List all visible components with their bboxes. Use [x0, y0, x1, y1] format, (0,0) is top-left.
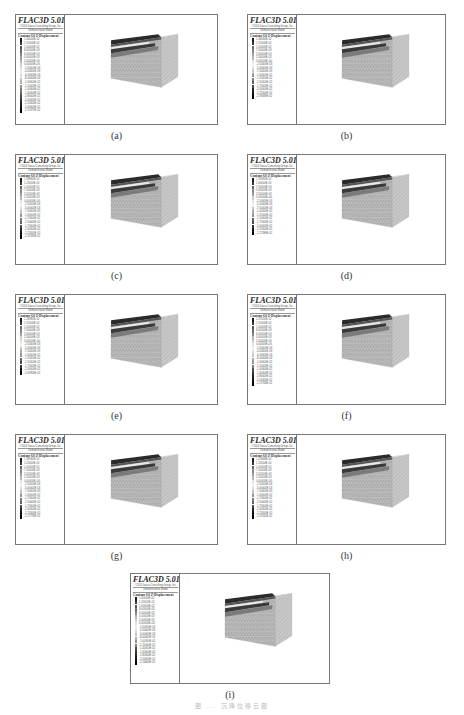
model-3d-render: [108, 449, 184, 511]
model-viewport: [297, 15, 445, 124]
legend-value: -2.16604E-02: [139, 661, 155, 665]
flac3d-window: FLAC3D 5.01 ©2014 Itasca Consulting Grou…: [15, 154, 218, 265]
legend-panel: FLAC3D 5.01 ©2014 Itasca Consulting Grou…: [248, 15, 297, 124]
legend-value: -2.05956E-02: [24, 372, 40, 376]
legend-swatch: [20, 109, 22, 112]
flac3d-window: FLAC3D 5.01 ©2014 Itasca Consulting Grou…: [247, 154, 446, 265]
legend-panel: FLAC3D 5.01 ©2014 Itasca Consulting Grou…: [16, 15, 65, 124]
figure-panel-g: FLAC3D 5.01 ©2014 Itasca Consulting Grou…: [15, 434, 218, 571]
software-title: FLAC3D 5.01: [133, 575, 178, 584]
flac3d-window: FLAC3D 5.01 ©2014 Itasca Consulting Grou…: [247, 434, 446, 545]
legend-list: 1.40000E-021.20000E-021.00000E-028.00000…: [135, 597, 178, 664]
legend-panel: FLAC3D 5.01 ©2014 Itasca Consulting Grou…: [16, 155, 65, 264]
model-viewport: [297, 155, 445, 264]
legend-value: -2.27778E-02: [24, 515, 40, 519]
figure-panel-d: FLAC3D 5.01 ©2014 Itasca Consulting Grou…: [247, 154, 446, 291]
legend-swatch: [252, 515, 254, 518]
legend-entry: -2.21766E-02: [252, 382, 295, 386]
model-3d-render: [339, 449, 415, 511]
legend-list: 1.37020E-021.20000E-021.00000E-028.00000…: [252, 318, 295, 385]
legend-swatch: [135, 661, 137, 664]
panel-label: (b): [247, 130, 446, 141]
software-title: FLAC3D 5.01: [250, 436, 295, 445]
software-title: FLAC3D 5.01: [18, 296, 63, 305]
model-3d-render: [108, 29, 184, 91]
legend-swatch: [20, 372, 22, 375]
model-viewport: [297, 435, 445, 544]
panel-label: (d): [247, 270, 446, 281]
model-3d-render: [339, 309, 415, 371]
figure-panel-i: FLAC3D 5.01 ©2014 Itasca Consulting Grou…: [130, 573, 330, 710]
model-viewport: [65, 435, 217, 544]
legend-value: -2.57475E-02: [24, 109, 40, 113]
legend-entry: -2.16604E-02: [135, 661, 178, 665]
software-title: FLAC3D 5.01: [18, 436, 63, 445]
software-title: FLAC3D 5.01: [250, 156, 295, 165]
legend-list: 1.31830E-021.00000E-027.50000E-035.00000…: [252, 178, 295, 235]
model-viewport: [65, 155, 217, 264]
model-viewport: [65, 15, 217, 124]
flac3d-window: FLAC3D 5.01 ©2014 Itasca Consulting Grou…: [15, 294, 218, 405]
figure-panel-c: FLAC3D 5.01 ©2014 Itasca Consulting Grou…: [15, 154, 218, 291]
model-viewport: [180, 574, 329, 683]
legend-panel: FLAC3D 5.01 ©2014 Itasca Consulting Grou…: [248, 155, 297, 264]
legend-swatch: [20, 235, 22, 238]
legend-value: -2.39483E-02: [256, 95, 272, 99]
legend-panel: FLAC3D 5.01 ©2014 Itasca Consulting Grou…: [16, 435, 65, 544]
software-title: FLAC3D 5.01: [250, 16, 295, 25]
legend-entry: -2.57475E-02: [20, 109, 63, 113]
software-title: FLAC3D 5.01: [18, 156, 63, 165]
legend-entry: -2.05956E-02: [20, 372, 63, 376]
legend-entry: -2.39483E-02: [252, 95, 295, 99]
legend-swatch: [252, 95, 254, 98]
model-3d-render: [339, 169, 415, 231]
legend-value: -2.27586E-02: [256, 232, 272, 236]
figure-panel-e: FLAC3D 5.01 ©2014 Itasca Consulting Grou…: [15, 294, 218, 431]
panel-label: (f): [247, 410, 446, 421]
flac3d-window: FLAC3D 5.01 ©2014 Itasca Consulting Grou…: [247, 14, 446, 125]
legend-value: -2.21766E-02: [256, 382, 272, 386]
model-3d-render: [222, 588, 298, 650]
legend-swatch: [20, 515, 22, 518]
software-title: FLAC3D 5.01: [250, 296, 295, 305]
model-3d-render: [108, 309, 184, 371]
legend-swatch: [252, 232, 254, 235]
legend-list: 1.46660E-021.25000E-021.00000E-027.50000…: [252, 38, 295, 98]
model-3d-render: [339, 29, 415, 91]
figure-panel-h: FLAC3D 5.01 ©2014 Itasca Consulting Grou…: [247, 434, 446, 571]
legend-list: 1.39965E-021.25000E-021.00000E-027.50000…: [20, 178, 63, 238]
panel-label: (i): [130, 689, 330, 700]
legend-list: 1.39565E-021.25000E-021.00000E-027.50000…: [20, 458, 63, 518]
legend-value: -2.37583E-02: [24, 235, 40, 239]
legend-panel: FLAC3D 5.01 ©2014 Itasca Consulting Grou…: [248, 295, 297, 404]
model-3d-render: [108, 169, 184, 231]
flac3d-window: FLAC3D 5.01 ©2014 Itasca Consulting Grou…: [247, 294, 446, 405]
flac3d-window: FLAC3D 5.01 ©2014 Itasca Consulting Grou…: [15, 434, 218, 545]
panel-label: (e): [15, 410, 218, 421]
legend-list: 1.40000E-021.20000E-021.00000E-028.00000…: [20, 38, 63, 112]
legend-panel: FLAC3D 5.01 ©2014 Itasca Consulting Grou…: [131, 574, 180, 683]
panel-label: (g): [15, 550, 218, 561]
model-viewport: [297, 295, 445, 404]
figure-panel-b: FLAC3D 5.01 ©2014 Itasca Consulting Grou…: [247, 14, 446, 151]
figure-panel-f: FLAC3D 5.01 ©2014 Itasca Consulting Grou…: [247, 294, 446, 431]
legend-value: -2.37042E-02: [256, 515, 272, 519]
legend-swatch: [252, 382, 254, 385]
legend-entry: -2.37042E-02: [252, 515, 295, 519]
model-viewport: [65, 295, 217, 404]
panel-label: (c): [15, 270, 218, 281]
software-title: FLAC3D 5.01: [18, 16, 63, 25]
legend-list: 1.41868E-021.25000E-021.00000E-027.50000…: [252, 458, 295, 518]
flac3d-window: FLAC3D 5.01 ©2014 Itasca Consulting Grou…: [15, 14, 218, 125]
legend-entry: -2.27586E-02: [252, 232, 295, 236]
panel-label: (h): [247, 550, 446, 561]
legend-list: 1.28385E-021.25000E-021.00000E-027.50000…: [20, 318, 63, 375]
figure-panel-a: FLAC3D 5.01 ©2014 Itasca Consulting Grou…: [15, 14, 218, 151]
legend-panel: FLAC3D 5.01 ©2014 Itasca Consulting Grou…: [16, 295, 65, 404]
flac3d-window: FLAC3D 5.01 ©2014 Itasca Consulting Grou…: [130, 573, 330, 684]
legend-panel: FLAC3D 5.01 ©2014 Itasca Consulting Grou…: [248, 435, 297, 544]
legend-entry: -2.27778E-02: [20, 515, 63, 519]
figure-caption: 图 ... 沉降位移云图: [0, 701, 464, 710]
panel-label: (a): [15, 130, 218, 141]
legend-entry: -2.37583E-02: [20, 235, 63, 239]
